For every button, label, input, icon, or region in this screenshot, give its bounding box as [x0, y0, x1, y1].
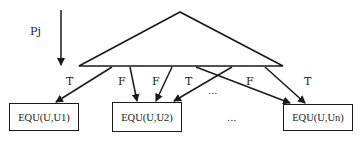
diagram-canvas: Pj T F F T F T ... ... EQU(U,U1) EQU(U,U…: [0, 0, 362, 143]
edge-label: T: [304, 76, 311, 87]
edge-label: F: [246, 76, 254, 87]
ellipsis-middle: ...: [208, 86, 218, 96]
node-equ-un: EQU(U,Un): [283, 104, 353, 131]
edge-label: T: [66, 76, 73, 87]
node-label: EQU(U,U2): [121, 112, 173, 123]
edge-label: F: [152, 76, 160, 87]
edge-f-to-n2: [130, 67, 137, 101]
node-label: EQU(U,U1): [18, 112, 70, 123]
edge-t-to-n3: [265, 67, 305, 103]
node-label: EQU(U,Un): [292, 112, 344, 123]
edge-label: F: [118, 76, 126, 87]
decision-triangle: [79, 12, 283, 66]
edge-t-to-n2: [174, 67, 232, 101]
edge-label: T: [185, 76, 192, 87]
input-label-pj: Pj: [30, 26, 41, 37]
node-equ-u1: EQU(U,U1): [9, 103, 79, 131]
edge-t-to-n1: [56, 67, 112, 102]
node-equ-u2: EQU(U,U2): [112, 102, 182, 132]
ellipsis-bottom: ...: [227, 113, 237, 123]
